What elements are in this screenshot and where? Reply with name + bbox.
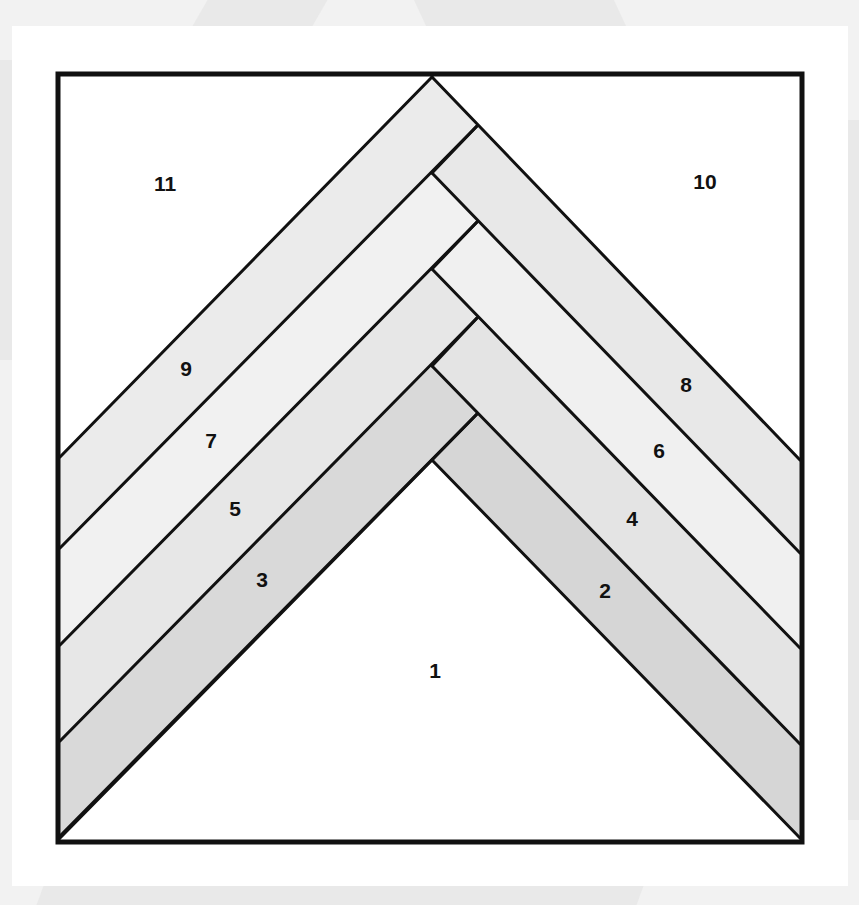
piece-label-4: 4: [626, 507, 638, 530]
piece-label-1: 1: [429, 659, 441, 682]
piece-label-8: 8: [680, 373, 692, 396]
piece-label-3: 3: [256, 568, 268, 591]
piece-label-10: 10: [693, 170, 716, 193]
piece-label-11: 11: [154, 172, 177, 195]
piece-label-5: 5: [229, 497, 241, 520]
piece-label-2: 2: [599, 579, 611, 602]
piece-label-6: 6: [653, 439, 665, 462]
piece-label-7: 7: [205, 429, 217, 452]
chevron-quilt-block: 1 2 3 4 5 6 7 8 9 10 11: [0, 0, 859, 905]
piece-label-9: 9: [180, 357, 192, 380]
